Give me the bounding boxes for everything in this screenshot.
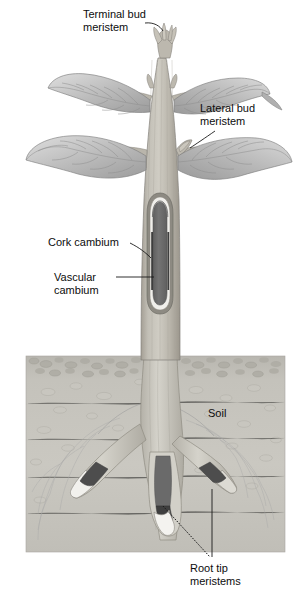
stem-cutaway — [147, 193, 173, 314]
label-lateral-bud-line2: meristem — [200, 115, 245, 127]
leaf-lower-left — [26, 136, 146, 178]
label-cork-cambium: Cork cambium — [48, 236, 119, 248]
label-lateral-bud-line1: Lateral bud — [200, 102, 255, 114]
label-root-tip-line1: Root tip — [190, 562, 228, 574]
terminal-bud-meristem — [154, 23, 177, 58]
label-terminal-bud-line1: Terminal bud — [83, 8, 146, 20]
cutaway-core — [153, 202, 167, 305]
cork-cambium-band-right — [167, 232, 169, 290]
leaf-upper-left — [48, 74, 150, 114]
label-vascular-cambium-line1: Vascular — [54, 271, 96, 283]
leaf-lower-right — [178, 138, 292, 180]
central-root-vascular — [155, 456, 172, 506]
cork-cambium-band-left — [151, 232, 153, 290]
diagram-canvas: Terminal bud meristem Lateral bud merist… — [0, 0, 305, 595]
meristem-diagram: Terminal bud meristem Lateral bud merist… — [0, 0, 305, 595]
label-terminal-bud-line2: meristem — [83, 21, 128, 33]
axillary-bud-left — [147, 74, 154, 88]
axillary-bud-right — [170, 74, 177, 88]
label-root-tip-line2: meristems — [190, 575, 241, 587]
label-soil: Soil — [208, 407, 226, 419]
label-vascular-cambium-line2: cambium — [54, 284, 99, 296]
